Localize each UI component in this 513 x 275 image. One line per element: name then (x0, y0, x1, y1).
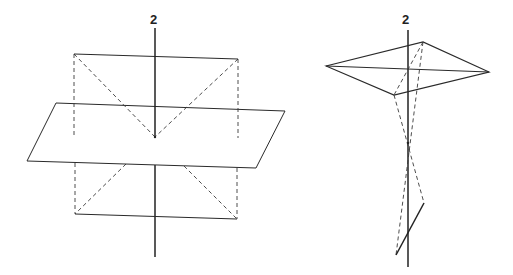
left-dash-diag-br (184, 166, 237, 219)
right-axis-label: 2 (402, 12, 409, 27)
left-top-edge (74, 54, 238, 59)
left-bottom-edge (75, 214, 237, 219)
symmetry-diagram: 2 2 (0, 0, 513, 275)
left-figure: 2 (27, 12, 285, 257)
right-lower-edge (396, 203, 424, 255)
left-dash-diag-bl (75, 164, 126, 214)
left-axis-label: 2 (150, 12, 157, 27)
right-figure: 2 (326, 12, 489, 267)
left-center-point (154, 136, 156, 138)
right-dash-bottom-to-lower (394, 95, 424, 203)
right-crossing-point (407, 142, 409, 144)
right-dash-top-to-bottom (396, 42, 423, 255)
